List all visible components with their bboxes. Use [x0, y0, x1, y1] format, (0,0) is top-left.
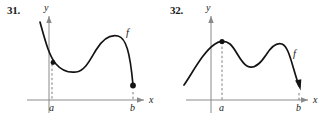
- tick-label-a-31: a: [49, 102, 54, 113]
- figure-panel-31: 31. y x a b f: [0, 0, 164, 127]
- tick-label-b-31: b: [130, 102, 135, 113]
- y-axis-label-31: y: [44, 2, 48, 13]
- x-axis-arrowhead-32: [301, 97, 308, 102]
- figure-board: 31. y x a b f 32.: [0, 0, 327, 127]
- x-axis-label-31: x: [149, 94, 153, 105]
- tick-label-b-32: b: [296, 102, 301, 113]
- marker-endpoint-b-31: [130, 83, 136, 89]
- marker-point-a-32: [219, 39, 224, 44]
- x-axis-label-32: x: [313, 94, 317, 105]
- marker-point-a-31: [51, 60, 56, 65]
- figure-panel-32: 32. y x a b f: [163, 0, 327, 127]
- y-axis-arrowhead-32: [208, 16, 213, 23]
- function-label-f-32: f: [293, 48, 296, 59]
- y-axis-label-32: y: [206, 2, 210, 13]
- x-axis-arrowhead-31: [137, 97, 144, 102]
- plot-31: [0, 0, 164, 127]
- function-label-f-31: f: [126, 27, 129, 38]
- curve-f-31: [40, 22, 133, 85]
- plot-32: [163, 0, 327, 127]
- curve-f-32: [184, 41, 299, 86]
- marker-arrowhead-b-32: [295, 79, 301, 90]
- tick-label-a-32: a: [219, 102, 224, 113]
- y-axis-arrowhead-31: [46, 16, 51, 23]
